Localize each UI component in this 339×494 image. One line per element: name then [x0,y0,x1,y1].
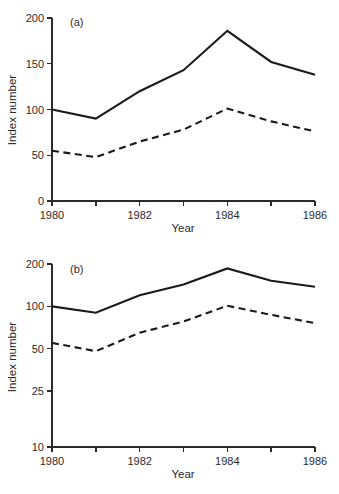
panel-tag-b: (b) [70,263,83,275]
x-tick-label: 1984 [215,455,239,467]
series-solid-a [52,31,315,119]
y-tick-label: 10 [32,441,44,453]
panel-b-svg: 102550100200 1980198219841986 (b) Year I… [0,247,339,494]
y-tick-label: 50 [32,149,44,161]
x-tick-group-b: 1980198219841986 [40,447,327,467]
y-axis-title-a: Index number [6,75,18,145]
figure-two-panel-index-chart: 050100150200 1980198219841986 (a) Year I… [0,0,339,494]
y-tick-label: 50 [32,343,44,355]
y-tick-label: 100 [26,104,44,116]
y-tick-label: 25 [32,385,44,397]
x-tick-label: 1986 [303,455,327,467]
panel-tag-a: (a) [70,16,83,28]
y-tick-label: 150 [26,58,44,70]
x-tick-label: 1982 [127,209,151,221]
x-tick-label: 1980 [40,209,64,221]
y-tick-label: 100 [26,300,44,312]
series-dashed-a [52,109,315,158]
chart-panel-b: 102550100200 1980198219841986 (b) Year I… [0,247,339,494]
y-tick-label: 200 [26,12,44,24]
x-tick-label: 1984 [215,209,239,221]
x-tick-label: 1986 [303,209,327,221]
x-tick-label: 1980 [40,455,64,467]
y-tick-label: 0 [38,195,44,207]
chart-panel-a: 050100150200 1980198219841986 (a) Year I… [0,0,339,247]
y-tick-group-a: 050100150200 [26,12,52,207]
series-solid-b [52,268,315,312]
y-tick-group-b: 102550100200 [26,258,52,453]
x-axis-title-a: Year [171,222,194,234]
x-axis-title-b: Year [171,468,194,480]
y-axis-title-b: Index number [6,322,18,392]
x-tick-group-a: 1980198219841986 [40,201,327,221]
x-tick-label: 1982 [127,455,151,467]
y-tick-label: 200 [26,258,44,270]
panel-a-svg: 050100150200 1980198219841986 (a) Year I… [0,0,339,247]
